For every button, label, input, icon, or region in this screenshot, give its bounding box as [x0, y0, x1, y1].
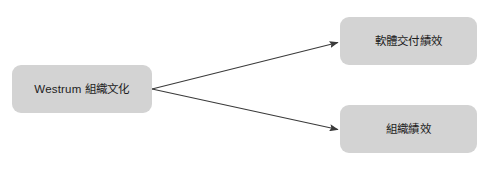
arrow-source-to-delivery — [152, 43, 338, 90]
node-organizational-performance-label: 組織績效 — [386, 122, 431, 136]
node-software-delivery-performance[interactable]: 軟體交付績效 — [340, 17, 477, 65]
diagram-canvas: Westrum 組織文化 軟體交付績效 組織績效 — [0, 0, 495, 171]
node-organizational-performance[interactable]: 組織績效 — [340, 105, 477, 153]
node-westrum-culture-label: Westrum 組織文化 — [34, 82, 129, 96]
node-software-delivery-performance-label: 軟體交付績效 — [375, 34, 442, 48]
arrow-source-to-org — [152, 89, 338, 130]
node-westrum-culture[interactable]: Westrum 組織文化 — [12, 65, 152, 113]
